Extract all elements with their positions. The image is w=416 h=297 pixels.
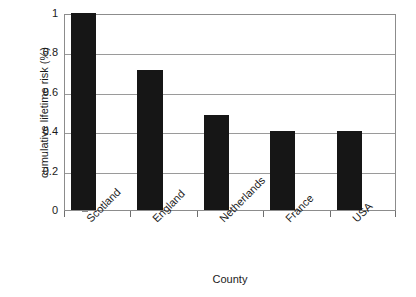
bar (337, 131, 362, 210)
x-axis-title: County (64, 272, 396, 286)
y-axis-tick-label: 0 (24, 205, 58, 216)
x-axis-category-labels: ScotlandEnglandNetherlandsFranceUSA (64, 216, 396, 270)
bar-slot (264, 15, 330, 210)
x-axis-category-label: France (283, 216, 291, 224)
y-axis-tick-label: 0.4 (24, 126, 58, 137)
bar (204, 115, 229, 210)
bar (270, 131, 295, 210)
x-axis-category-label: England (150, 216, 158, 224)
x-axis-category-label: Scotland (84, 216, 92, 224)
bar (137, 70, 162, 210)
bars-layer (65, 15, 395, 210)
bar-chart-figure: cumulative lifetime risk (%) 10.80.60.40… (0, 0, 416, 297)
y-axis-tick-label: 0.6 (24, 87, 58, 98)
y-axis-tick-label: 1 (24, 8, 58, 19)
bar-slot (331, 15, 397, 210)
bar-slot (65, 15, 131, 210)
plot-area (64, 14, 396, 211)
bar (71, 13, 96, 210)
x-axis-category-label: Netherlands (217, 216, 225, 224)
y-axis-tick-label: 0.2 (24, 166, 58, 177)
x-axis-category-label: USA (350, 216, 358, 224)
y-axis-tick-labels: 10.80.60.40.20 (24, 14, 58, 211)
y-axis-tick-label: 0.8 (24, 47, 58, 58)
bar-slot (131, 15, 197, 210)
